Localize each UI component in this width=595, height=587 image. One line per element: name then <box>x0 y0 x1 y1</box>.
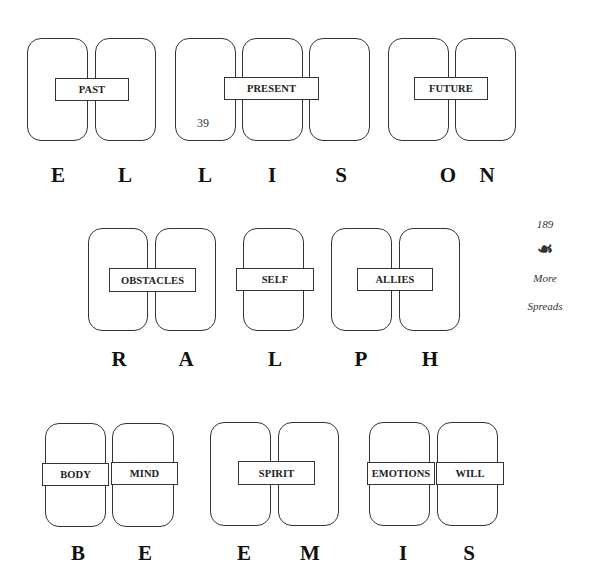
section-title-line1: More <box>510 272 580 284</box>
position-label-spirit: SPIRIT <box>238 461 315 485</box>
margin-note: 189 ☙ More Spreads <box>510 210 580 320</box>
page-number: 39 <box>197 116 209 131</box>
letter: S <box>463 543 475 564</box>
letter: L <box>198 165 212 186</box>
position-label-allies: ALLIES <box>357 268 433 291</box>
letter: E <box>138 543 152 564</box>
letter: E <box>237 543 251 564</box>
position-label-emotions: EMOTIONS <box>367 462 435 485</box>
letter: R <box>111 349 126 370</box>
letter: L <box>118 165 132 186</box>
position-label-will: WILL <box>436 462 504 485</box>
position-label-future: FUTURE <box>414 77 488 100</box>
letter: P <box>355 349 368 370</box>
letter: I <box>399 543 407 564</box>
section-title-line2: Spreads <box>510 300 580 312</box>
letter: M <box>300 543 320 564</box>
letter: L <box>268 349 282 370</box>
position-label-mind: MIND <box>111 462 178 485</box>
position-label-obstacles: OBSTACLES <box>109 268 196 292</box>
margin-page-number: 189 <box>510 218 580 230</box>
letter: I <box>268 165 276 186</box>
letter: B <box>71 543 85 564</box>
letter: A <box>178 349 193 370</box>
position-label-self: SELF <box>236 268 314 291</box>
position-label-present: PRESENT <box>224 77 319 100</box>
letter: S <box>335 165 347 186</box>
letter: H <box>422 349 438 370</box>
position-label-body: BODY <box>42 463 109 486</box>
position-label-past: PAST <box>55 78 129 101</box>
letter: E <box>51 165 65 186</box>
fleuron-ornament-icon: ☙ <box>510 238 580 260</box>
letter: O <box>440 165 456 186</box>
letter: N <box>479 165 494 186</box>
